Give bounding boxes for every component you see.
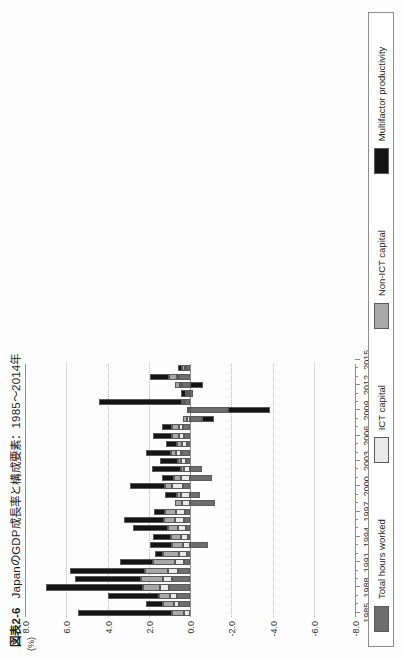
bar-group-2013[interactable] bbox=[25, 374, 355, 380]
bar-group-1995[interactable] bbox=[25, 525, 355, 531]
bar-group-2014[interactable] bbox=[25, 365, 355, 371]
bar-group-2004[interactable] bbox=[25, 450, 355, 456]
value-axis-tick-label: 0.0 bbox=[186, 621, 196, 634]
bar-segment bbox=[186, 525, 190, 531]
bar-segment bbox=[181, 466, 184, 472]
category-axis-minor-tick bbox=[355, 570, 358, 571]
category-axis-minor-tick bbox=[355, 502, 358, 503]
category-axis-tick bbox=[355, 359, 360, 360]
legend-item-2[interactable]: Non-ICT capital bbox=[374, 230, 389, 329]
bar-group-2007[interactable] bbox=[25, 424, 355, 430]
bar-segment bbox=[160, 458, 178, 464]
bar-segment bbox=[184, 433, 190, 439]
bar-segment bbox=[184, 517, 190, 523]
bar-segment bbox=[187, 551, 190, 557]
bar-group-1996[interactable] bbox=[25, 517, 355, 523]
bar-segment bbox=[188, 391, 190, 397]
legend-label: ICT capital bbox=[376, 385, 387, 430]
bar-segment bbox=[183, 416, 187, 422]
legend: Total hours workedICT capitalNon-ICT cap… bbox=[368, 12, 394, 647]
bar-segment bbox=[169, 374, 177, 380]
bar-group-2001[interactable] bbox=[25, 475, 355, 481]
value-axis-tick-label: 4.0 bbox=[104, 621, 114, 634]
bar-group-2012[interactable] bbox=[25, 382, 355, 388]
bar-segment bbox=[190, 542, 208, 548]
bar-segment bbox=[162, 475, 173, 481]
bar-segment bbox=[152, 466, 181, 472]
bar-segment bbox=[145, 568, 169, 574]
bar-group-2010[interactable] bbox=[25, 399, 355, 405]
category-axis-minor-tick bbox=[355, 603, 358, 604]
legend-label: Non-ICT capital bbox=[376, 230, 387, 296]
bar-segment bbox=[190, 475, 212, 481]
legend-row: Total hours workedICT capitalNon-ICT cap… bbox=[369, 13, 393, 646]
category-axis-minor-tick bbox=[355, 511, 358, 512]
bar-group-1992[interactable] bbox=[25, 551, 355, 557]
bar-segment bbox=[202, 416, 213, 422]
bar-group-1993[interactable] bbox=[25, 542, 355, 548]
bar-segment bbox=[165, 492, 176, 498]
bar-segment bbox=[174, 475, 181, 481]
bar-segment bbox=[186, 458, 190, 464]
bar-group-1997[interactable] bbox=[25, 509, 355, 515]
bar-group-2006[interactable] bbox=[25, 433, 355, 439]
bar-group-1990[interactable] bbox=[25, 568, 355, 574]
bar-group-1991[interactable] bbox=[25, 559, 355, 565]
category-axis-minor-tick bbox=[355, 460, 358, 461]
bar-segment bbox=[187, 416, 190, 422]
bar-group-1998[interactable] bbox=[25, 500, 355, 506]
category-axis-minor-tick bbox=[355, 494, 358, 495]
bar-segment bbox=[178, 568, 190, 574]
bar-group-2002[interactable] bbox=[25, 466, 355, 472]
bar-group-2011[interactable] bbox=[25, 391, 355, 397]
bar-segment bbox=[190, 382, 203, 388]
bar-group-2009[interactable] bbox=[25, 407, 355, 413]
legend-swatch-icon bbox=[374, 303, 389, 329]
legend-swatch-icon bbox=[374, 437, 389, 463]
legend-item-1[interactable]: ICT capital bbox=[374, 385, 389, 463]
bar-group-1986[interactable] bbox=[25, 601, 355, 607]
bar-segment bbox=[141, 576, 164, 582]
bar-segment bbox=[159, 593, 170, 599]
bar-group-1999[interactable] bbox=[25, 492, 355, 498]
value-axis-tick-label: 2.0 bbox=[145, 621, 155, 634]
bar-segment bbox=[181, 534, 188, 540]
bar-segment bbox=[185, 509, 190, 515]
bar-segment bbox=[163, 576, 172, 582]
bar-group-2003[interactable] bbox=[25, 458, 355, 464]
bar-segment bbox=[190, 492, 200, 498]
bar-group-1985[interactable] bbox=[25, 610, 355, 616]
bar-segment bbox=[177, 593, 190, 599]
bar-segment bbox=[179, 374, 190, 380]
bar-segment bbox=[165, 483, 172, 489]
bar-segment bbox=[178, 525, 186, 531]
bar-segment bbox=[164, 517, 174, 523]
bar-segment bbox=[178, 458, 181, 464]
legend-item-0[interactable]: Total hours worked bbox=[374, 519, 389, 632]
category-axis-minor-tick bbox=[355, 536, 358, 537]
bar-group-1988[interactable] bbox=[25, 584, 355, 590]
bar-group-2005[interactable] bbox=[25, 441, 355, 447]
bar-group-2008[interactable] bbox=[25, 416, 355, 422]
bar-segment bbox=[182, 382, 190, 388]
value-axis-tick-label: -6.0 bbox=[310, 621, 320, 637]
bar-segment bbox=[182, 441, 187, 447]
bar-segment bbox=[146, 601, 164, 607]
legend-swatch-icon bbox=[374, 606, 389, 632]
legend-label: Total hours worked bbox=[376, 519, 387, 599]
value-axis-tick-label: -8.0 bbox=[351, 621, 361, 637]
bar-segment bbox=[175, 382, 180, 388]
category-axis-minor-tick bbox=[355, 468, 358, 469]
legend-item-3[interactable]: Multifactor productivity bbox=[374, 47, 389, 175]
bar-segment bbox=[185, 365, 187, 371]
bar-group-1987[interactable] bbox=[25, 593, 355, 599]
figure-title: 図表2-6JapanのGDP成長率と構成要素：1985〜2014年 bbox=[7, 353, 23, 647]
bar-segment bbox=[172, 576, 190, 582]
bar-segment bbox=[175, 500, 182, 506]
bar-group-2000[interactable] bbox=[25, 483, 355, 489]
bar-segment bbox=[180, 382, 182, 388]
bar-group-1989[interactable] bbox=[25, 576, 355, 582]
value-axis-unit-label: (%) bbox=[26, 637, 36, 651]
bar-group-1994[interactable] bbox=[25, 534, 355, 540]
bar-segment bbox=[183, 483, 190, 489]
